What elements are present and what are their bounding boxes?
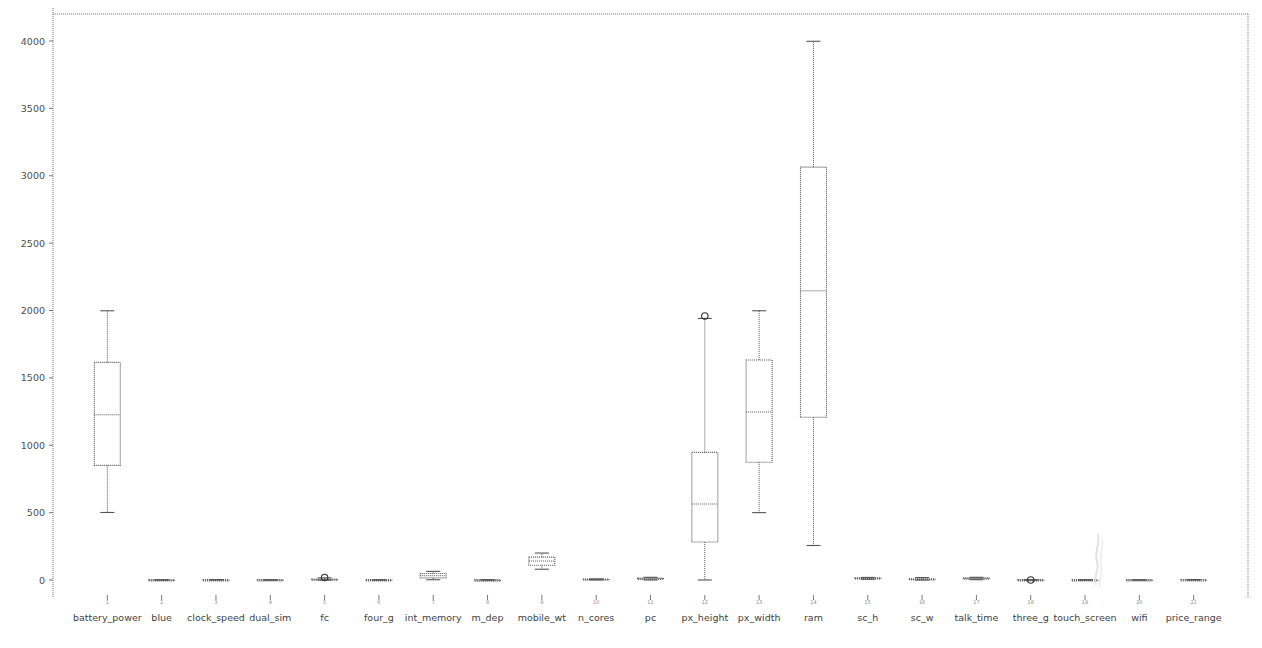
y-tick-label: 3500 (21, 103, 45, 114)
y-tick-label: 1500 (21, 372, 45, 383)
x-tick-label-ram: ram (804, 612, 823, 623)
x-tick-label-wifi: wifi (1131, 612, 1147, 623)
x-tick-index: 15 (865, 599, 871, 605)
y-tick-label: 500 (27, 507, 45, 518)
x-tick-label-m_dep: m_dep (472, 612, 504, 623)
x-tick-label-three_g: three_g (1013, 612, 1049, 623)
x-tick-index: 13 (756, 599, 762, 605)
x-tick-label-blue: blue (151, 612, 172, 623)
x-tick-label-px_height: px_height (681, 612, 728, 623)
y-tick-label: 2000 (21, 305, 45, 316)
x-tick-label-n_cores: n_cores (578, 612, 614, 623)
x-tick-index: 12 (702, 599, 708, 605)
x-tick-label-price_range: price_range (1166, 612, 1222, 623)
y-tick-label: 3000 (21, 170, 45, 181)
x-tick-index: 11 (647, 599, 653, 605)
x-tick-index: 2 (160, 599, 163, 605)
x-tick-label-talk_time: talk_time (954, 612, 998, 623)
x-tick-label-px_width: px_width (738, 612, 781, 623)
x-tick-index: 4 (269, 599, 272, 605)
figure-background (0, 0, 1262, 648)
x-tick-index: 18 (1028, 599, 1034, 605)
x-tick-index: 10 (593, 599, 599, 605)
y-tick-label: 2500 (21, 238, 45, 249)
x-tick-index: 7 (432, 599, 435, 605)
x-tick-index: 9 (540, 599, 543, 605)
x-tick-label-int_memory: int_memory (405, 612, 462, 623)
x-tick-label-fc: fc (320, 612, 329, 623)
x-tick-label-four_g: four_g (364, 612, 394, 623)
x-tick-label-sc_w: sc_w (911, 612, 934, 623)
x-tick-index: 21 (1190, 599, 1196, 605)
x-tick-index: 1 (106, 599, 109, 605)
y-tick-label: 1000 (21, 440, 45, 451)
x-tick-index: 14 (810, 599, 816, 605)
x-tick-label-dual_sim: dual_sim (249, 612, 291, 623)
y-tick-label: 0 (39, 575, 45, 586)
x-tick-label-pc: pc (645, 612, 656, 623)
x-tick-label-mobile_wt: mobile_wt (518, 612, 567, 623)
x-tick-index: 17 (973, 599, 979, 605)
boxplot-canvas: 05001000150020002500300035004000 1batter… (0, 0, 1262, 648)
x-tick-label-touch_screen: touch_screen (1053, 612, 1116, 623)
x-tick-label-battery_power: battery_power (73, 612, 142, 623)
x-tick-index: 20 (1136, 599, 1142, 605)
x-tick-index: 8 (486, 599, 489, 605)
x-tick-index: 3 (214, 599, 217, 605)
y-tick-label: 4000 (21, 36, 45, 47)
x-tick-index: 5 (323, 599, 326, 605)
x-tick-index: 16 (919, 599, 925, 605)
x-tick-index: 19 (1082, 599, 1088, 605)
x-tick-label-sc_h: sc_h (857, 612, 878, 623)
x-tick-label-clock_speed: clock_speed (187, 612, 245, 623)
x-tick-index: 6 (377, 599, 380, 605)
boxplot-figure: 05001000150020002500300035004000 1batter… (0, 0, 1262, 648)
